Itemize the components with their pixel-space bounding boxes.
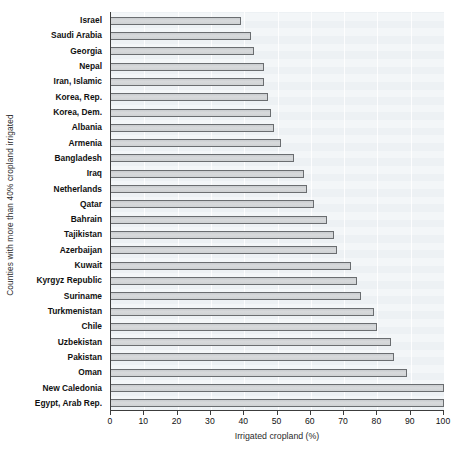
- y-axis-tick-label: Pakistan: [68, 352, 102, 363]
- bar[interactable]: [111, 384, 444, 392]
- y-axis-tick-label: Tajikistan: [64, 229, 102, 240]
- y-axis-tick-label: Korea, Dem.: [53, 107, 102, 118]
- bar[interactable]: [111, 231, 334, 239]
- bar[interactable]: [111, 63, 264, 71]
- x-axis-tick-mark: [243, 410, 244, 415]
- x-axis-tick-label: 20: [172, 416, 182, 426]
- x-axis-tick-label: 50: [272, 416, 282, 426]
- bar[interactable]: [111, 154, 294, 162]
- x-axis-tick-mark: [110, 410, 111, 415]
- y-axis-title-text: Counties with more than 40% cropland irr…: [5, 114, 15, 296]
- bar[interactable]: [111, 200, 314, 208]
- bar[interactable]: [111, 32, 251, 40]
- y-axis-tick-label: Qatar: [80, 199, 102, 210]
- y-axis-tick-label: Uzbekistan: [58, 337, 102, 348]
- bar[interactable]: [111, 124, 274, 132]
- x-axis-tick-label: 30: [205, 416, 215, 426]
- x-axis-tick-mark: [343, 410, 344, 415]
- x-axis-tick-mark: [210, 410, 211, 415]
- x-axis-tick-mark: [376, 410, 377, 415]
- x-axis-tick-mark: [443, 410, 444, 415]
- bar[interactable]: [111, 308, 374, 316]
- bar[interactable]: [111, 93, 268, 101]
- bar[interactable]: [111, 369, 407, 377]
- bar[interactable]: [111, 323, 377, 331]
- x-axis-tick-mark: [143, 410, 144, 415]
- y-axis-tick-label: Bangladesh: [55, 153, 102, 164]
- y-axis-tick-label: Israel: [80, 15, 102, 26]
- y-axis-tick-label: Turkmenistan: [48, 306, 102, 317]
- y-axis-tick-label: Chile: [82, 321, 102, 332]
- bar[interactable]: [111, 399, 444, 407]
- x-axis: Irrigated cropland (%) 01020304050607080…: [110, 410, 444, 456]
- y-axis-tick-label: Azerbaijan: [60, 245, 102, 256]
- bar[interactable]: [111, 185, 307, 193]
- y-axis-tick-label: Oman: [78, 367, 102, 378]
- y-axis-tick-labels: IsraelSaudi ArabiaGeorgiaNepalIran, Isla…: [20, 12, 106, 410]
- y-axis-title: Counties with more than 40% cropland irr…: [0, 0, 20, 410]
- x-axis-tick-mark: [310, 410, 311, 415]
- y-axis-tick-label: Korea, Rep.: [55, 92, 102, 103]
- x-axis-tick-label: 100: [436, 416, 450, 426]
- y-axis-tick-label: Suriname: [64, 291, 102, 302]
- bar[interactable]: [111, 17, 241, 25]
- bar[interactable]: [111, 170, 304, 178]
- x-axis-tick-label: 0: [108, 416, 113, 426]
- y-axis-tick-label: Saudi Arabia: [51, 30, 102, 41]
- y-axis-tick-label: Albania: [72, 122, 102, 133]
- y-axis-tick-label: New Caledonia: [42, 383, 102, 394]
- x-axis-tick-label: 90: [405, 416, 415, 426]
- bar[interactable]: [111, 338, 391, 346]
- y-axis-tick-label: Georgia: [70, 46, 102, 57]
- gridline-vertical: [444, 12, 445, 410]
- x-axis-tick-label: 70: [338, 416, 348, 426]
- bar[interactable]: [111, 353, 394, 361]
- chart-figure: Counties with more than 40% cropland irr…: [0, 0, 458, 456]
- x-axis-tick-label: 40: [238, 416, 248, 426]
- bar[interactable]: [111, 216, 327, 224]
- bar[interactable]: [111, 139, 281, 147]
- x-axis-tick-mark: [410, 410, 411, 415]
- bar[interactable]: [111, 78, 264, 86]
- x-axis-tick-mark: [277, 410, 278, 415]
- y-axis-tick-label: Iraq: [87, 168, 102, 179]
- bar[interactable]: [111, 262, 351, 270]
- bar[interactable]: [111, 109, 271, 117]
- y-axis-tick-label: Iran, Islamic: [54, 76, 102, 87]
- bar[interactable]: [111, 47, 254, 55]
- y-axis-tick-label: Egypt, Arab Rep.: [35, 398, 102, 409]
- y-axis-tick-label: Nepal: [79, 61, 102, 72]
- bar[interactable]: [111, 246, 337, 254]
- y-axis-tick-label: Kyrgyz Republic: [36, 275, 102, 286]
- bar[interactable]: [111, 292, 361, 300]
- x-axis-title: Irrigated cropland (%): [110, 431, 444, 441]
- y-axis-tick-label: Netherlands: [54, 184, 102, 195]
- y-axis-tick-label: Bahrain: [71, 214, 102, 225]
- x-axis-tick-mark: [177, 410, 178, 415]
- x-axis-tick-label: 60: [305, 416, 315, 426]
- bar[interactable]: [111, 277, 357, 285]
- x-axis-tick-label: 10: [139, 416, 149, 426]
- x-axis-tick-label: 80: [372, 416, 382, 426]
- y-axis-tick-label: Kuwait: [75, 260, 102, 271]
- plot-panel: [110, 12, 444, 411]
- y-axis-tick-label: Armenia: [68, 138, 102, 149]
